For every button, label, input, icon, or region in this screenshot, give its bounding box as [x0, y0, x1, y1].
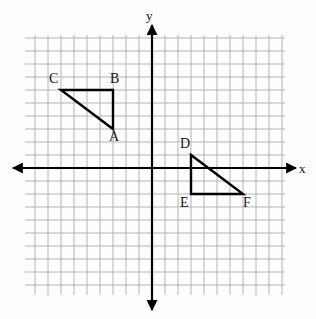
coordinate-plane-svg: [0, 0, 316, 319]
y-axis-label: y: [146, 9, 153, 22]
vertex-label-b: B: [110, 72, 119, 86]
vertex-label-d: D: [180, 137, 190, 151]
x-axis-label: x: [299, 162, 306, 175]
grid-lines: [25, 35, 285, 295]
axes: [13, 25, 296, 310]
vertex-label-f: F: [243, 196, 251, 210]
coordinate-plane-figure: x y A B C D E F: [0, 0, 316, 319]
vertex-label-a: A: [109, 130, 119, 144]
vertex-label-c: C: [49, 72, 58, 86]
vertex-label-e: E: [180, 196, 189, 210]
